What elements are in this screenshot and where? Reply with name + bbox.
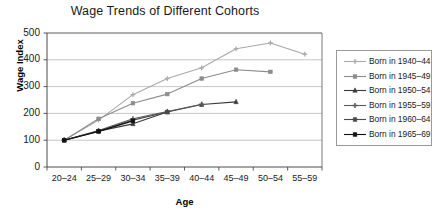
- chart-legend: Born in 1940–44Born in 1945–49Born in 19…: [336, 50, 432, 146]
- data-point-marker: [268, 41, 273, 46]
- data-point-marker: [353, 74, 357, 78]
- legend-item-2[interactable]: Born in 1945–49: [341, 70, 431, 84]
- data-point-marker: [352, 103, 357, 108]
- legend-label: Born in 1945–49: [369, 71, 430, 81]
- y-tick-label: 300: [2, 80, 40, 91]
- data-point-marker: [165, 76, 170, 81]
- data-point-marker: [97, 117, 101, 121]
- data-point-marker: [269, 70, 273, 74]
- data-point-marker: [353, 59, 358, 64]
- data-point-marker: [166, 92, 170, 96]
- data-point-marker: [131, 119, 135, 123]
- series-line: [64, 102, 236, 140]
- y-tick-label: 500: [2, 27, 40, 38]
- legend-item-1[interactable]: Born in 1940–44: [341, 55, 431, 69]
- y-tick-label: 400: [2, 53, 40, 64]
- chart-figure: Wage Trends of Different Cohorts Wage In…: [0, 0, 436, 214]
- data-point-marker: [353, 118, 357, 122]
- data-point-marker: [97, 130, 101, 134]
- legend-label: Born in 1955–59: [369, 100, 430, 110]
- data-point-marker: [200, 77, 204, 81]
- series-3: [62, 99, 238, 142]
- x-tick-label: 55–59: [285, 173, 325, 183]
- series-line: [64, 43, 305, 140]
- data-point-marker: [302, 52, 307, 57]
- legend-swatch: [343, 128, 367, 141]
- data-point-marker: [166, 110, 170, 114]
- data-point-marker: [131, 101, 135, 105]
- legend-label: Born in 1965–69: [369, 129, 430, 139]
- legend-label: Born in 1950–54: [369, 85, 430, 95]
- data-point-marker: [62, 138, 66, 142]
- legend-item-5[interactable]: Born in 1960–64: [341, 113, 431, 127]
- data-point-marker: [234, 68, 238, 72]
- data-point-marker: [199, 65, 204, 70]
- legend-label: Born in 1960–64: [369, 114, 430, 124]
- legend-swatch: [343, 70, 367, 83]
- legend-item-6[interactable]: Born in 1965–69: [341, 128, 431, 142]
- legend-item-3[interactable]: Born in 1950–54: [341, 84, 431, 98]
- legend-label: Born in 1940–44: [369, 56, 430, 66]
- legend-swatch: [343, 113, 367, 126]
- y-tick-label: 0: [2, 161, 40, 172]
- legend-swatch: [343, 99, 367, 112]
- legend-item-4[interactable]: Born in 1955–59: [341, 99, 431, 113]
- legend-swatch: [343, 55, 367, 68]
- data-point-marker: [353, 133, 357, 137]
- y-tick-label: 200: [2, 107, 40, 118]
- data-point-marker: [234, 46, 239, 51]
- y-tick-label: 100: [2, 134, 40, 145]
- series-1: [62, 41, 307, 143]
- legend-swatch: [343, 84, 367, 97]
